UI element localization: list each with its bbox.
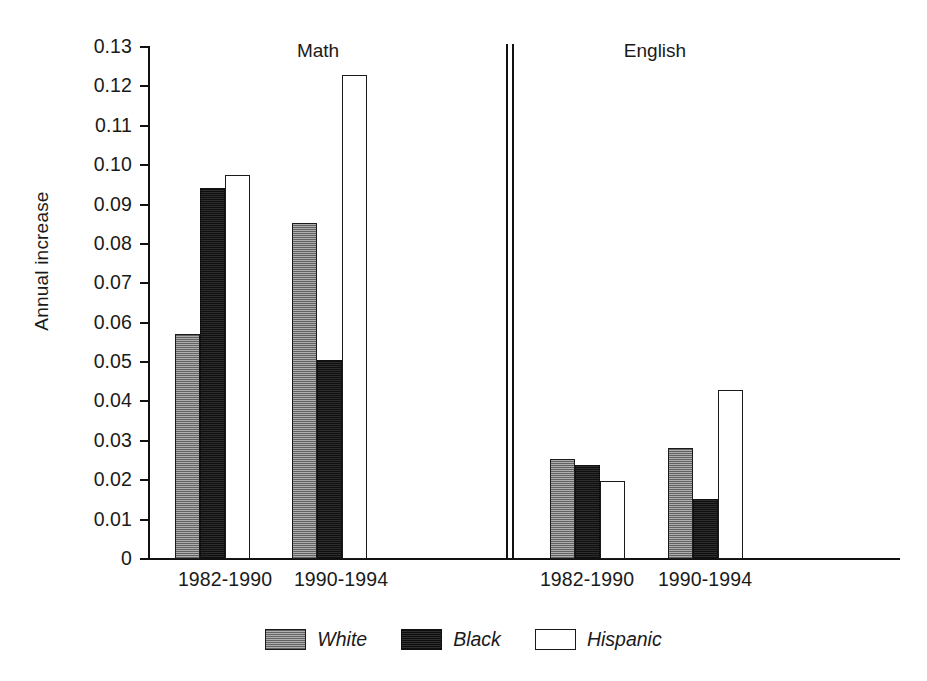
bar-english-1982-1990-white bbox=[550, 459, 575, 559]
x-label-math-1990-1994: 1990-1994 bbox=[248, 568, 434, 591]
y-tick-mark bbox=[140, 322, 149, 324]
y-tick-label: 0.12 bbox=[40, 76, 132, 96]
bar-math-1982-1990-black bbox=[200, 188, 225, 559]
panel-title-english: English bbox=[580, 40, 730, 62]
bar-math-1990-1994-hispanic bbox=[342, 75, 367, 559]
y-tick-mark bbox=[140, 164, 149, 166]
y-tick-label: 0.06 bbox=[40, 313, 132, 333]
bar-english-1982-1990-hispanic bbox=[600, 481, 625, 559]
y-tick-mark bbox=[140, 558, 149, 560]
y-tick-mark bbox=[140, 479, 149, 481]
legend-item-black: Black bbox=[401, 628, 501, 651]
y-tick-mark bbox=[140, 46, 149, 48]
x-label-english-1990-1994: 1990-1994 bbox=[612, 568, 798, 591]
bar-english-1990-1994-black bbox=[693, 499, 718, 559]
legend-label-hispanic: Hispanic bbox=[587, 628, 662, 651]
y-tick-mark bbox=[140, 361, 149, 363]
y-tick-label: 0.02 bbox=[40, 470, 132, 490]
legend-item-hispanic: Hispanic bbox=[535, 628, 662, 651]
y-tick-label: 0.01 bbox=[40, 510, 132, 530]
y-tick-label: 0.07 bbox=[40, 273, 132, 293]
bar-math-1990-1994-black bbox=[317, 360, 342, 559]
bar-math-1982-1990-white bbox=[175, 334, 200, 559]
panel-divider-line-2 bbox=[512, 44, 514, 560]
legend-swatch-hispanic-icon bbox=[535, 629, 576, 650]
bar-chart: Annual increase 0.130.120.110.100.090.08… bbox=[0, 0, 927, 681]
legend-item-white: White bbox=[265, 628, 367, 651]
bar-english-1982-1990-black bbox=[575, 465, 600, 559]
y-tick-label: 0.08 bbox=[40, 234, 132, 254]
y-tick-mark bbox=[140, 282, 149, 284]
y-tick-label: 0.10 bbox=[40, 155, 132, 175]
y-tick-label: 0.04 bbox=[40, 391, 132, 411]
y-tick-mark bbox=[140, 400, 149, 402]
legend-swatch-white-icon bbox=[265, 629, 306, 650]
y-tick-mark bbox=[140, 204, 149, 206]
y-tick-mark bbox=[140, 440, 149, 442]
y-axis-line bbox=[148, 46, 150, 560]
chart-legend: White Black Hispanic bbox=[0, 628, 927, 651]
panel-title-math: Math bbox=[248, 40, 388, 62]
y-tick-label: 0.11 bbox=[40, 116, 132, 136]
bar-math-1990-1994-white bbox=[292, 223, 317, 559]
bar-english-1990-1994-hispanic bbox=[718, 390, 743, 559]
y-tick-mark bbox=[140, 243, 149, 245]
bar-english-1990-1994-white bbox=[668, 448, 693, 559]
legend-label-black: Black bbox=[453, 628, 501, 651]
y-tick-label: 0.03 bbox=[40, 431, 132, 451]
legend-label-white: White bbox=[317, 628, 367, 651]
y-tick-label: 0.09 bbox=[40, 195, 132, 215]
y-tick-label: 0 bbox=[40, 549, 132, 569]
y-tick-label: 0.05 bbox=[40, 352, 132, 372]
bar-math-1982-1990-hispanic bbox=[225, 175, 250, 559]
y-tick-mark bbox=[140, 519, 149, 521]
panel-divider-line-1 bbox=[506, 44, 508, 560]
y-tick-mark bbox=[140, 85, 149, 87]
x-axis-line bbox=[148, 558, 900, 560]
legend-swatch-black-icon bbox=[401, 629, 442, 650]
y-tick-mark bbox=[140, 125, 149, 127]
y-tick-label: 0.13 bbox=[40, 37, 132, 57]
